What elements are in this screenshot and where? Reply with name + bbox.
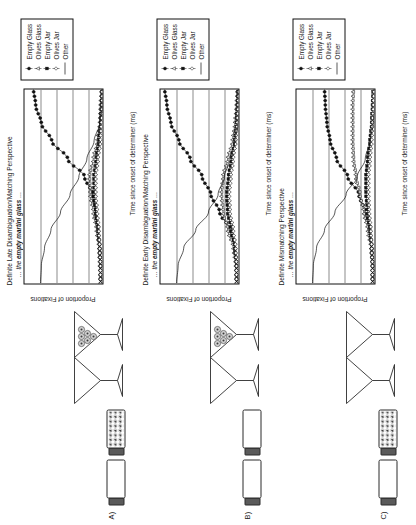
legend-item: Empty Glass: [160, 23, 169, 76]
data-point: [33, 99, 36, 102]
data-point: [364, 186, 367, 189]
legend-label: Empty Glass: [161, 23, 168, 59]
data-point: [189, 160, 192, 163]
stimulus-empty-jar-b: [242, 459, 261, 505]
panel-c: C): [276, 0, 409, 525]
data-point: [175, 133, 178, 136]
legend-label: Other: [197, 43, 204, 59]
stimulus-empty-jar-a: [106, 459, 125, 505]
data-point: [325, 125, 328, 128]
data-point: [85, 181, 88, 184]
legend-item: Olives Jar: [187, 23, 196, 76]
data-point: [226, 186, 229, 189]
data-point: [226, 181, 229, 184]
data-point: [364, 173, 367, 176]
data-point: [188, 155, 191, 158]
data-point: [225, 190, 228, 193]
martini-glass-olives-icon: [70, 307, 126, 361]
data-point: [206, 186, 209, 189]
data-point: [324, 112, 327, 115]
data-point: [164, 94, 167, 97]
data-point: [226, 212, 229, 215]
data-point: [83, 177, 86, 180]
series-layer: [24, 88, 103, 283]
data-point: [170, 125, 173, 128]
data-point: [67, 160, 70, 163]
legend-item: Olives Jar: [51, 23, 60, 76]
panel-a: A): [4, 0, 137, 525]
data-point: [350, 120, 353, 123]
data-point: [88, 194, 91, 197]
data-point: [168, 116, 171, 119]
series-line: [164, 88, 236, 283]
data-point: [165, 107, 168, 110]
data-point: [51, 142, 54, 145]
data-point: [350, 129, 353, 132]
chart-title-b: Definite Early Disambiguation/Matching P…: [141, 134, 148, 285]
legend-item: Olives Glass: [169, 23, 178, 76]
figure-stage: A): [0, 0, 416, 525]
subtitle-bold: empty martini glass: [14, 199, 21, 258]
data-point: [370, 268, 374, 271]
data-point: [350, 111, 353, 114]
data-point: [364, 194, 367, 197]
legend-marker-icon: [323, 60, 332, 76]
x-axis-label-a: Time since onset of determiner (ms): [128, 111, 135, 215]
data-point: [334, 155, 337, 158]
legend-marker-icon: [187, 60, 196, 76]
legend-marker-icon: [332, 60, 341, 76]
data-point: [32, 90, 35, 93]
jar-body-icon: [242, 459, 261, 498]
data-point: [329, 142, 332, 145]
y-axis-label-c: Proportion of Fixations: [287, 296, 383, 303]
data-point: [351, 94, 354, 97]
data-point: [227, 177, 230, 180]
subtitle-bold: empty martini glass: [150, 199, 157, 258]
data-point: [227, 173, 230, 176]
x-axis-label-c: Time since onset of determiner (ms): [400, 111, 407, 215]
panel-label-c: C): [378, 511, 387, 519]
data-point: [325, 120, 328, 123]
stimulus-display-c: C): [282, 309, 402, 519]
legend-c: Empty GlassOlives GlassEmpty JarOlives J…: [292, 18, 345, 80]
stimulus-empty-jar-c: [378, 459, 397, 505]
plot-area-a: 0.000.200.400.600.801.00-200020040060080…: [23, 88, 103, 284]
legend-marker-icon: [51, 60, 60, 76]
series-line: [40, 88, 103, 283]
legend-label: Olives Jar: [188, 31, 195, 59]
data-point: [172, 129, 175, 132]
legend-item: Olives Glass: [33, 23, 42, 76]
data-point: [40, 125, 43, 128]
stimulus-empty-glass-c-2: [342, 307, 398, 361]
data-point: [350, 98, 353, 101]
plot-area-c: 0.000.200.400.600.801.00-200020040060080…: [295, 88, 375, 284]
data-point: [361, 212, 364, 215]
data-point: [36, 112, 39, 115]
jar-body-icon: [242, 409, 261, 448]
data-point: [331, 146, 334, 149]
data-point: [353, 172, 356, 175]
data-point: [91, 207, 94, 210]
data-point: [164, 99, 167, 102]
legend-label: Empty Jar: [315, 31, 322, 59]
legend-marker-icon: [24, 60, 33, 76]
data-point: [364, 190, 367, 193]
y-axis-label-b: Proportion of Fixations: [151, 296, 247, 303]
legend-item: Empty Jar: [42, 23, 51, 76]
legend-label: Olives Glass: [170, 24, 177, 59]
data-point: [44, 129, 47, 132]
data-point: [32, 94, 35, 97]
data-point: [228, 168, 231, 171]
data-point: [338, 164, 341, 167]
data-point: [351, 88, 354, 89]
data-point: [350, 125, 353, 128]
data-point: [323, 90, 326, 93]
stimulus-empty-jar-b-2: [242, 409, 261, 455]
legend-item: Empty Jar: [178, 23, 187, 76]
data-point: [165, 103, 168, 106]
data-point: [323, 99, 326, 102]
series-layer: [296, 88, 375, 283]
olives-fill-icon: [108, 411, 123, 446]
data-point: [221, 177, 224, 180]
panel-label-a: A): [106, 511, 115, 519]
